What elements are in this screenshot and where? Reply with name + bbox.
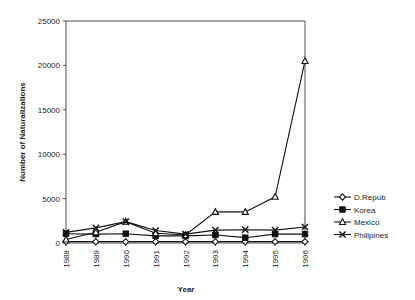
y-axis-tick-labels: 0500010000150002000025000 <box>38 17 61 248</box>
legend-item-d-repub[interactable]: D.Repub <box>334 193 386 202</box>
x-tick-label: 1996 <box>301 249 310 267</box>
y-tick-label: 20000 <box>38 61 61 70</box>
series-group <box>63 58 308 245</box>
legend-label: D.Repub <box>354 193 386 202</box>
x-tick-label: 1989 <box>92 249 101 267</box>
x-tick-label: 1993 <box>211 249 220 267</box>
data-point-diamond <box>153 239 159 245</box>
legend-label: Korea <box>354 206 376 215</box>
data-point-diamond <box>93 239 99 245</box>
data-point-square <box>302 231 307 236</box>
legend-label: Mexico <box>354 218 380 227</box>
data-point-diamond <box>339 194 345 200</box>
data-point-square <box>213 232 218 237</box>
data-point-square <box>123 231 128 236</box>
x-axis-title: Year <box>178 285 195 294</box>
plot-frame <box>66 21 305 243</box>
x-tick-label: 1995 <box>271 249 280 267</box>
x-axis-tick-labels: 198819891990199119921993199419951996 <box>62 249 310 267</box>
data-point-diamond <box>272 239 278 245</box>
chart-figure: 0500010000150002000025000 19881989199019… <box>0 0 415 300</box>
x-tick-label: 1992 <box>182 249 191 267</box>
x-tick-label: 1990 <box>122 249 131 267</box>
series-mexico <box>63 58 308 242</box>
x-tick-label: 1994 <box>241 249 250 267</box>
legend-item-philipines[interactable]: Philipines <box>334 231 388 240</box>
line-chart: 0500010000150002000025000 19881989199019… <box>0 0 415 300</box>
data-point-square <box>243 235 248 240</box>
x-tick-label: 1991 <box>152 249 161 267</box>
plot-border <box>66 21 305 243</box>
data-point-diamond <box>123 239 129 245</box>
data-point-triangle <box>63 236 69 242</box>
y-tick-label: 10000 <box>38 150 61 159</box>
data-point-diamond <box>182 239 188 245</box>
y-axis-title: Number of Naturalizations <box>18 82 27 182</box>
data-point-triangle <box>242 209 248 215</box>
y-tick-label: 15000 <box>38 106 61 115</box>
data-point-diamond <box>302 239 308 245</box>
legend-item-korea[interactable]: Korea <box>334 206 376 215</box>
legend-item-mexico[interactable]: Mexico <box>334 218 380 227</box>
data-point-triangle <box>272 194 278 200</box>
legend: D.RepubKoreaMexicoPhilipines <box>334 193 388 240</box>
legend-label: Philipines <box>354 231 388 240</box>
y-tick-label: 25000 <box>38 17 61 26</box>
y-tick-label: 0 <box>56 239 61 248</box>
data-point-triangle <box>339 219 345 225</box>
series-d-repub <box>63 239 308 245</box>
data-point-diamond <box>212 239 218 245</box>
y-tick-label: 5000 <box>42 195 60 204</box>
x-tick-label: 1988 <box>62 249 71 267</box>
data-point-triangle <box>212 209 218 215</box>
series-line <box>66 61 305 239</box>
data-point-square <box>340 207 345 212</box>
data-point-triangle <box>302 58 308 64</box>
